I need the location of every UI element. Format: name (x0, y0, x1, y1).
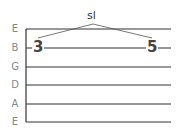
string-label-d: D (9, 79, 21, 91)
string-label-high-e: E (9, 23, 21, 35)
string-label-a: A (9, 98, 21, 110)
fret-note-end: 5 (146, 40, 158, 55)
string-label-b: B (9, 42, 21, 54)
slide-arc (38, 24, 152, 38)
slide-technique-label: sl (87, 10, 96, 22)
string-label-low-e: E (9, 116, 21, 128)
tab-diagram: E B G D A E sl 3 5 (0, 0, 179, 133)
string-label-g: G (9, 61, 21, 73)
fret-note-start: 3 (32, 40, 44, 55)
